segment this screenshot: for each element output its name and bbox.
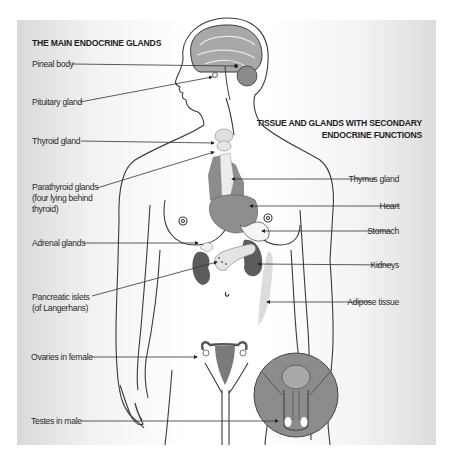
label-pituitary-gland: Pituitary gland [32, 97, 82, 108]
label-ovaries-in-female: Ovaries in female [31, 352, 93, 363]
label-adipose-tissue: Adipose tissue [347, 297, 399, 308]
brain-illustration [191, 25, 262, 100]
label-kidneys: Kidneys [371, 260, 399, 271]
uterus-illustration [202, 342, 246, 385]
label-line: thyroid) [32, 204, 98, 215]
label-line: (four lying behind [32, 193, 98, 204]
label-pancreatic-islets: Pancreatic islets (of Langerhans) [32, 292, 89, 314]
title-secondary-functions: TISSUE AND GLANDS WITH SECONDARY ENDOCRI… [222, 117, 422, 141]
label-thymus-gland: Thymus gland [349, 174, 399, 185]
label-line: Parathyroid glands [32, 182, 98, 193]
thymus-heart-illustration [208, 153, 258, 233]
label-thyroid-gland: Thyroid gland [32, 136, 80, 147]
label-stomach: Stomach [367, 226, 399, 237]
label-testes-in-male: Testes in male [31, 416, 82, 427]
title-secondary-line2: ENDOCRINE FUNCTIONS [222, 129, 422, 141]
label-heart: Heart [379, 201, 399, 212]
label-pineal-body: Pineal body [32, 59, 74, 70]
label-adrenal-glands: Adrenal glands [32, 238, 85, 249]
label-parathyroid-glands: Parathyroid glands (four lying behind th… [32, 182, 98, 215]
label-line: Pancreatic islets [32, 292, 89, 303]
label-line: (of Langerhans) [32, 303, 89, 314]
title-secondary-line1: TISSUE AND GLANDS WITH SECONDARY [222, 117, 422, 129]
kidneys-pancreas-illustration [192, 240, 262, 285]
male-inset-illustration [254, 353, 338, 437]
title-main-endocrine-glands: THE MAIN ENDOCRINE GLANDS [32, 37, 161, 49]
